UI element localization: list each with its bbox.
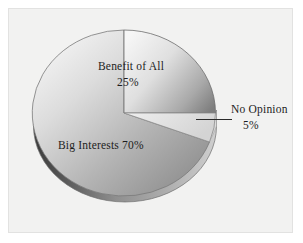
label-benefit-of-all: Benefit of All bbox=[98, 60, 164, 72]
label-no-opinion: No Opinion bbox=[231, 103, 288, 115]
label-no-opinion-value: 5% bbox=[243, 119, 259, 131]
label-big-interests: Big Interests 70% bbox=[58, 139, 144, 151]
label-benefit-of-all-value: 25% bbox=[117, 76, 139, 88]
pie-chart-figure: Benefit of All 25% No Opinion 5% Big Int… bbox=[0, 0, 303, 243]
